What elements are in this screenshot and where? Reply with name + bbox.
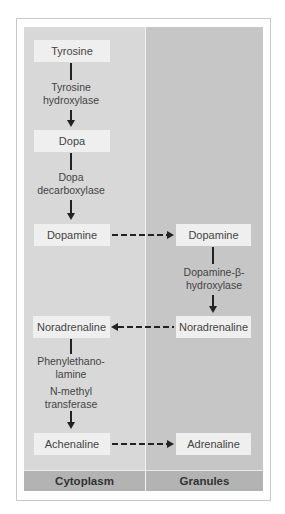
enzyme-pnmt: Phenylethano- lamine N-methyl transferas… [26, 355, 116, 411]
cytoplasm-label: Cytoplasm [24, 471, 145, 491]
dashed-arrow-line [112, 443, 168, 445]
enzyme-dopamine-beta-hydroxylase: Dopamine-β- hydroxylase [170, 266, 258, 292]
dashed-arrow-line [112, 234, 168, 236]
node-achenaline: Achenaline [34, 433, 110, 455]
arrow-right-icon [167, 231, 174, 239]
arrow-down-icon [67, 422, 75, 429]
node-adrenaline: Adrenaline [176, 433, 251, 455]
node-dopamine-granules: Dopamine [176, 224, 251, 246]
arrow-down-icon [67, 120, 75, 127]
node-dopamine-cytoplasm: Dopamine [34, 224, 110, 246]
arrow-down-icon [209, 306, 217, 313]
arrow-right-icon [167, 440, 174, 448]
arrow-line [70, 63, 72, 80]
granules-region [146, 27, 263, 470]
arrow-line [212, 247, 214, 264]
enzyme-dopa-decarboxylase: Dopa decarboxylase [28, 171, 114, 197]
node-noradrenaline-cytoplasm: Noradrenaline [33, 316, 110, 338]
dashed-arrow-line [118, 326, 174, 328]
enzyme-tyrosine-hydroxylase: Tyrosine hydroxylase [30, 81, 112, 107]
arrow-down-icon [67, 213, 75, 220]
node-tyrosine: Tyrosine [34, 40, 110, 62]
arrow-line [70, 339, 72, 354]
arrow-line [70, 200, 72, 214]
granules-label: Granules [146, 471, 263, 491]
arrow-left-icon [111, 323, 118, 331]
arrow-line [70, 153, 72, 170]
node-dopa: Dopa [34, 130, 110, 152]
node-noradrenaline-granules: Noradrenaline [176, 316, 251, 338]
compartment-divider [145, 27, 146, 491]
